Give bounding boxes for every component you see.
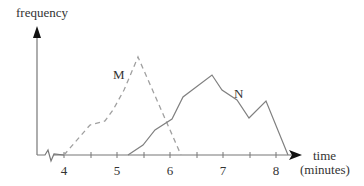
tick-label-4: 4 <box>61 163 68 178</box>
tick-label-7: 7 <box>220 163 227 178</box>
y-axis-arrow-icon <box>33 26 41 38</box>
frequency-time-chart: 4 5 6 7 8 M N frequency time (minutes) <box>0 0 364 186</box>
tick-label-8: 8 <box>273 163 280 178</box>
series-n-line <box>128 75 288 155</box>
series-m-label: M <box>113 67 125 82</box>
x-axis-label-line1: time <box>313 148 336 163</box>
y-axis-label: frequency <box>16 5 68 20</box>
tick-label-6: 6 <box>167 163 174 178</box>
x-axis-label-line2: (minutes) <box>300 162 350 177</box>
series-n-label: N <box>234 86 244 101</box>
tick-label-5: 5 <box>114 163 121 178</box>
